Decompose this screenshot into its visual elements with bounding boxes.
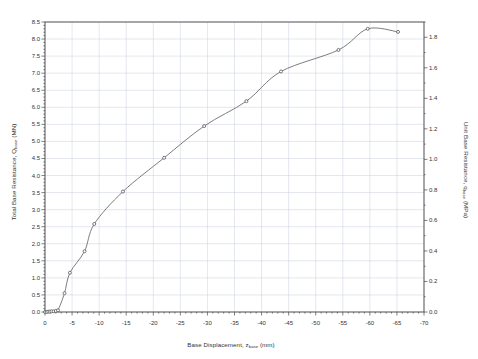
x-tick-label: -15: [122, 320, 131, 326]
y-tick-label-left: 3.0: [32, 207, 40, 213]
x-tick-label: -60: [366, 320, 375, 326]
x-tick-label: -25: [176, 320, 185, 326]
y-axis-right-title: Unit Base Resistance, qbase (MPa): [462, 122, 470, 218]
data-point-marker: [63, 292, 66, 295]
y-tick-label-left: 5.0: [32, 138, 40, 144]
x-tick-label: -5: [69, 320, 74, 326]
chart-figure: Total Base Resistance, Qbase (MN) Unit B…: [0, 0, 478, 359]
y-tick-label-left: 4.0: [32, 173, 40, 179]
x-tick-label: -10: [95, 320, 104, 326]
y-tick-label-left: 8.0: [32, 36, 40, 42]
data-point-marker: [245, 100, 248, 103]
x-tick-label: 0: [43, 320, 46, 326]
y-axis-left-title: Total Base Resistance, Qbase (MN): [10, 124, 18, 221]
x-tick-label: -45: [284, 320, 293, 326]
y-tick-label-left: 0.0: [32, 309, 40, 315]
data-point-marker: [203, 125, 206, 128]
data-point-marker: [56, 309, 59, 312]
data-point-marker: [397, 30, 400, 33]
data-point-marker: [337, 48, 340, 51]
y-tick-label-left: 2.5: [32, 224, 40, 230]
x-tick-label: -40: [257, 320, 266, 326]
y-tick-label-right: 0.8: [429, 187, 437, 193]
y-tick-label-left: 7.5: [32, 53, 40, 59]
y-tick-label-right: 1.2: [429, 126, 437, 132]
y-tick-label-left: 1.0: [32, 275, 40, 281]
chart-plot-area: [0, 0, 478, 359]
y-tick-label-left: 6.0: [32, 104, 40, 110]
data-point-marker: [93, 222, 96, 225]
x-axis-title: Base Displacement, zbase (mm): [187, 341, 274, 349]
data-point-marker: [68, 271, 71, 274]
y-tick-label-left: 1.5: [32, 258, 40, 264]
y-tick-label-right: 0.2: [429, 278, 437, 284]
y-tick-label-right: 0.0: [429, 309, 437, 315]
x-tick-label: -35: [230, 320, 239, 326]
data-point-marker: [163, 156, 166, 159]
y-tick-label-left: 4.5: [32, 155, 40, 161]
y-tick-label-right: 1.4: [429, 95, 437, 101]
data-point-marker: [83, 250, 86, 253]
x-tick-label: -65: [393, 320, 402, 326]
x-tick-label: -55: [338, 320, 347, 326]
data-point-marker: [121, 190, 124, 193]
x-tick-label: -20: [149, 320, 158, 326]
y-tick-label-right: 0.6: [429, 217, 437, 223]
x-tick-label: -50: [311, 320, 320, 326]
x-tick-label: -70: [420, 320, 429, 326]
y-tick-label-left: 8.5: [32, 19, 40, 25]
y-tick-label-left: 6.5: [32, 87, 40, 93]
y-tick-label-left: 2.0: [32, 241, 40, 247]
y-tick-label-left: 5.5: [32, 121, 40, 127]
y-tick-label-right: 1.0: [429, 156, 437, 162]
x-tick-label: -30: [203, 320, 212, 326]
y-tick-label-left: 3.5: [32, 190, 40, 196]
y-tick-label-right: 1.6: [429, 65, 437, 71]
y-tick-label-right: 0.4: [429, 248, 437, 254]
data-point-marker: [366, 27, 369, 30]
y-tick-label-left: 7.0: [32, 70, 40, 76]
y-tick-label-right: 1.8: [429, 34, 437, 40]
y-tick-label-left: 0.5: [32, 292, 40, 298]
data-point-marker: [280, 70, 283, 73]
